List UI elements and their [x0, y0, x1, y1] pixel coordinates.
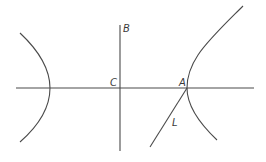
label-L: L: [172, 117, 178, 128]
label-B: B: [123, 23, 130, 34]
line-L: [150, 88, 187, 147]
right-branch-curve: [187, 6, 243, 140]
label-A: A: [178, 77, 186, 88]
hyperbola-diagram: B C A L: [0, 0, 266, 162]
label-C: C: [110, 77, 117, 88]
